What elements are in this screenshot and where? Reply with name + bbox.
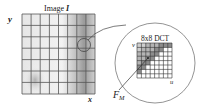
fm-pointer-dot [147, 57, 149, 59]
dct-zoom-panel: 8x8 DCT v u [115, 23, 195, 103]
image-title: Image I [44, 4, 70, 13]
dct-title: 8x8 DCT [141, 34, 170, 43]
y-axis-label: y [7, 14, 13, 24]
x-axis-label: x [87, 95, 92, 104]
fm-label: FM [112, 89, 125, 101]
image-panel: Image I y x [7, 4, 95, 104]
v-axis-label: v [132, 41, 135, 48]
image-blob [23, 64, 47, 96]
dct-diagram: Image I y x 8x8 DCT v u [0, 0, 202, 106]
